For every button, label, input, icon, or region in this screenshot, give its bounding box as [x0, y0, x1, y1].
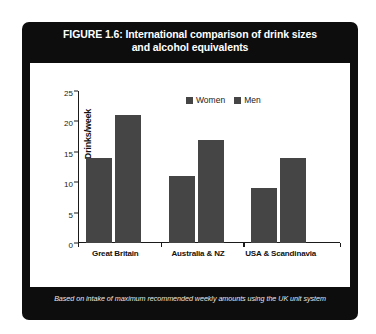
legend-label: Women — [196, 95, 225, 105]
legend-swatch-icon — [186, 97, 193, 104]
bar — [86, 158, 112, 243]
x-axis-labels: Great BritainAustralia & NZUSA & Scandin… — [78, 243, 340, 261]
x-axis-tick-mark — [340, 243, 341, 247]
bar — [115, 115, 141, 243]
chart-card: Drinks/week 0510152025 Great BritainAust… — [30, 63, 350, 287]
bar — [280, 158, 306, 243]
bar — [251, 188, 277, 243]
x-axis-category-label: USA & Scandinavia — [245, 249, 316, 258]
bar — [169, 176, 195, 243]
chart-legend: WomenMen — [186, 95, 261, 105]
plot-area: Drinks/week 0510152025 Great BritainAust… — [78, 91, 326, 243]
legend-swatch-icon — [234, 97, 241, 104]
bar — [198, 140, 224, 243]
figure-title-line-2: and alcohol equivalents — [32, 41, 348, 54]
legend-entry: Men — [234, 95, 261, 105]
x-axis-category-label: Great Britain — [92, 249, 139, 258]
legend-entry: Women — [186, 95, 225, 105]
figure-panel: FIGURE 1.6: International comparison of … — [22, 22, 358, 320]
figure-title: FIGURE 1.6: International comparison of … — [32, 28, 348, 54]
figure-caption: Based on intake of maximum recommended w… — [34, 294, 346, 303]
legend-label: Men — [244, 95, 261, 105]
x-axis-category-label: Australia & NZ — [171, 249, 224, 258]
bars-layer — [78, 91, 326, 243]
figure-title-line-1: FIGURE 1.6: International comparison of … — [32, 28, 348, 41]
